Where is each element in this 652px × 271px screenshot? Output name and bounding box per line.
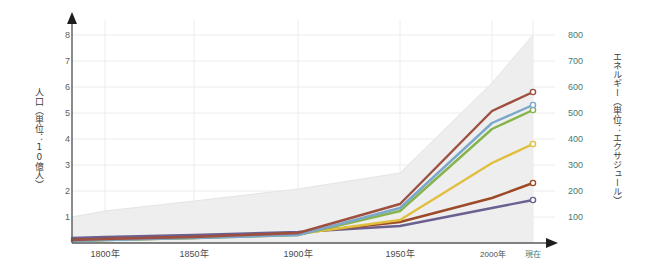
series-endpoint-blue — [530, 102, 535, 107]
x-axis-arrow-icon — [546, 238, 558, 248]
chart-container: 人口（単位：10億人） エネルギー（単位：エクサジュール） 8 7 6 5 4 … — [0, 0, 652, 271]
series-endpoint-yellow — [530, 141, 535, 146]
y-axis — [67, 12, 77, 243]
series-endpoint-brown — [530, 180, 535, 185]
series-endpoint-purple — [530, 197, 535, 202]
plot-area — [0, 0, 652, 271]
y-axis-arrow-icon — [67, 12, 77, 24]
series-endpoint-maroon — [530, 89, 535, 94]
